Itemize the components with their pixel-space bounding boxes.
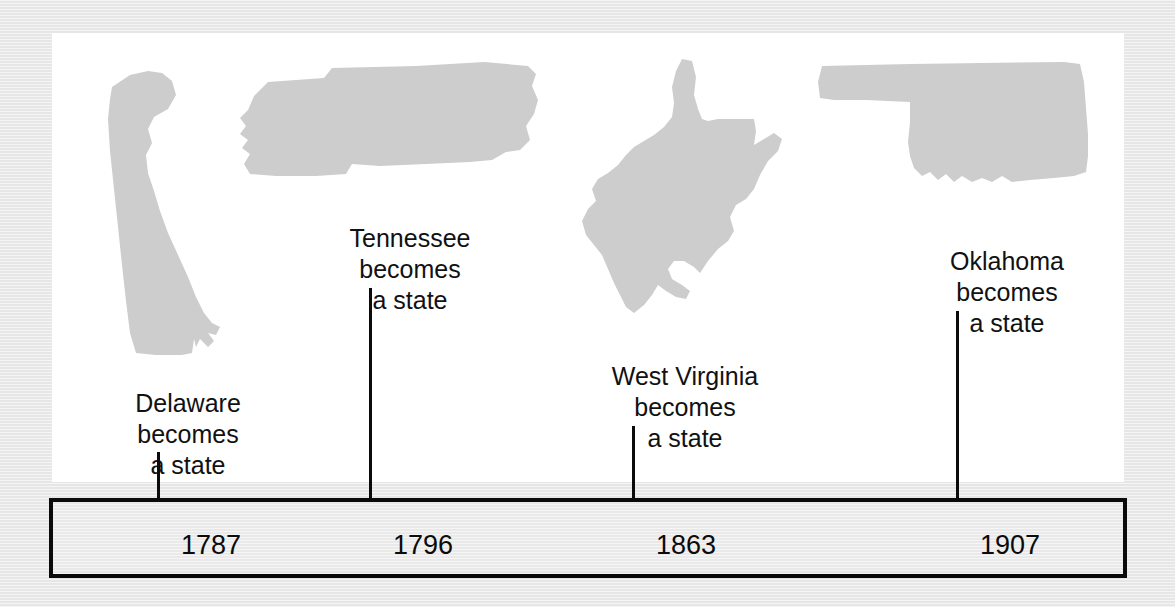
year-label-1863: 1863 [626, 530, 746, 560]
west-virginia-state-shape [568, 55, 788, 345]
event-caption-line: a state [88, 450, 288, 481]
event-caption-line: becomes [565, 392, 805, 423]
event-label-delaware: Delaware becomes a state [88, 388, 288, 481]
event-caption-line: a state [907, 308, 1107, 339]
event-caption-line: becomes [310, 254, 510, 285]
event-label-oklahoma: Oklahoma becomes a state [907, 246, 1107, 339]
event-caption-line: Delaware [88, 388, 288, 419]
year-label-1787: 1787 [151, 530, 271, 560]
event-caption-line: Oklahoma [907, 246, 1107, 277]
event-caption-line: a state [310, 285, 510, 316]
tennessee-state-shape [220, 52, 540, 192]
event-caption-line: becomes [907, 277, 1107, 308]
timeline-box: 1787 1796 1863 1907 [49, 498, 1127, 578]
event-caption-line: Tennessee [310, 223, 510, 254]
oklahoma-state-shape [814, 56, 1104, 206]
delaware-state-shape [96, 51, 226, 361]
year-label-1907: 1907 [950, 530, 1070, 560]
year-label-1796: 1796 [363, 530, 483, 560]
figure-panel: Delaware becomes a state Tennessee becom… [52, 33, 1124, 482]
event-caption-line: West Virginia [565, 361, 805, 392]
leader-line-tennessee [369, 288, 372, 530]
event-label-west-virginia: West Virginia becomes a state [565, 361, 805, 454]
event-caption-line: a state [565, 423, 805, 454]
event-caption-line: becomes [88, 419, 288, 450]
event-label-tennessee: Tennessee becomes a state [310, 223, 510, 316]
